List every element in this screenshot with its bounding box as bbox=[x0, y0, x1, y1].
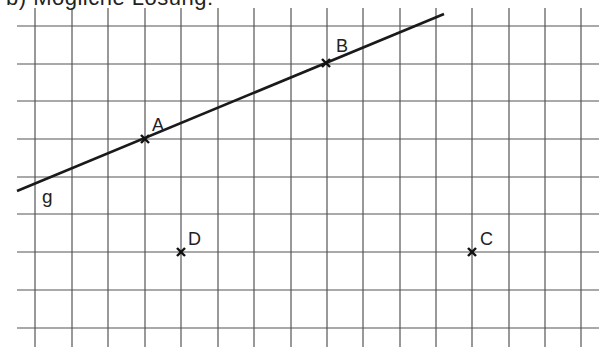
points-group: ABCD bbox=[141, 36, 493, 256]
point-label: D bbox=[188, 229, 201, 249]
exercise-heading: b) Mögliche Lösung: bbox=[6, 0, 214, 11]
line-g bbox=[17, 14, 444, 191]
point-label: C bbox=[480, 229, 493, 249]
point-b: B bbox=[322, 36, 348, 67]
grid-diagram: g ABCD bbox=[0, 0, 599, 357]
point-label: B bbox=[336, 36, 348, 56]
point-label: A bbox=[152, 115, 164, 135]
line-g-label: g bbox=[42, 186, 53, 207]
geometry-figure: b) Mögliche Lösung: g ABCD bbox=[0, 0, 599, 357]
